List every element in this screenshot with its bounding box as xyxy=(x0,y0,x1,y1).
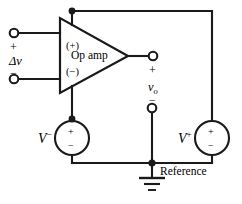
negative-supply-terminal-plus: + xyxy=(68,127,74,137)
negative-supply-terminal-minus: − xyxy=(68,141,74,151)
negative-supply-label: V− xyxy=(38,130,52,146)
opamp-body-label: Op amp xyxy=(71,50,108,62)
circuit-diagram-figure: (+) (−) Op amp + Δv − + vo − V− + − V+ +… xyxy=(0,0,242,204)
positive-supply-superscript: + xyxy=(187,129,192,139)
output-plus-sign: + xyxy=(149,64,156,76)
positive-supply-label: V+ xyxy=(178,130,192,146)
input-minus-sign: − xyxy=(10,67,17,79)
junction-dot-negative-supply xyxy=(69,116,76,123)
opamp-inverting-pin-label: (−) xyxy=(66,67,79,78)
input-plus-sign: + xyxy=(10,41,17,53)
reference-label: Reference xyxy=(160,166,207,178)
junction-dot-reference xyxy=(148,159,155,166)
positive-supply-terminal-minus: − xyxy=(208,141,214,151)
positive-supply-terminal-plus: + xyxy=(208,127,214,137)
junction-dot-top-supply xyxy=(69,8,76,15)
output-voltage-label: vo xyxy=(148,81,158,94)
negative-supply-name: V xyxy=(38,131,47,146)
output-minus-sign: − xyxy=(149,94,156,106)
output-terminal-positive[interactable] xyxy=(149,52,158,61)
input-terminal-positive[interactable] xyxy=(10,29,19,38)
negative-supply-superscript: − xyxy=(47,129,52,139)
ground-symbol xyxy=(139,178,165,190)
output-voltage-symbol: v xyxy=(148,80,154,94)
positive-supply-name: V xyxy=(178,131,187,146)
